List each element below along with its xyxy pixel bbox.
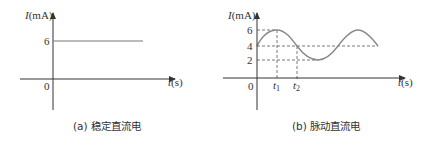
x-axis-label: t(s) xyxy=(398,76,413,89)
y-axis-label: I(mA) xyxy=(227,9,256,22)
pulsating-current-curve xyxy=(257,30,378,60)
origin-label: 0 xyxy=(248,80,254,92)
ytick-2: 2 xyxy=(247,54,253,66)
ytick-6: 6 xyxy=(44,35,50,47)
xtick-t1: t1 xyxy=(273,79,280,93)
xtick-t2: t2 xyxy=(293,79,300,93)
x-axis-label: t(s) xyxy=(168,76,183,89)
chart-b: I(mA) 6 4 2 0 t1 t2 t(s) xyxy=(223,9,413,110)
chart-a: I(mA) 6 0 t(s) xyxy=(20,9,183,110)
y-axis-label: I(mA) xyxy=(24,9,53,22)
origin-label: 0 xyxy=(44,80,50,92)
caption-b: (b) 脉动直流电 xyxy=(292,118,360,133)
ytick-4: 4 xyxy=(247,40,253,52)
figure-canvas: I(mA) 6 0 t(s) I(mA) 6 4 2 0 t1 t2 t(s) xyxy=(0,0,430,146)
caption-a: (a) 稳定直流电 xyxy=(73,118,141,133)
ytick-6: 6 xyxy=(247,24,253,36)
